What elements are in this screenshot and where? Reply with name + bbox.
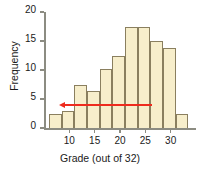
annotation-arrow-head [59, 102, 65, 108]
y-axis-tick-label: 0 [30, 120, 36, 131]
y-axis-label: Frequency [8, 21, 20, 111]
x-axis-tick-label: 30 [165, 135, 176, 146]
histogram-bar [112, 56, 125, 129]
x-axis-tick-label: 15 [89, 135, 100, 146]
histogram-bar [163, 48, 176, 128]
annotation-arrow-line [64, 104, 152, 106]
y-axis-tick-label: 15 [25, 33, 36, 44]
x-axis-tick [145, 129, 147, 133]
histogram-bar [100, 69, 113, 128]
y-axis-tick: 10 [40, 69, 44, 71]
x-axis-tick [119, 129, 121, 133]
y-axis-tick: 20 [40, 11, 44, 13]
y-axis-tick-label: 10 [25, 62, 36, 73]
histogram-bar [49, 114, 62, 129]
x-axis-tick [94, 129, 96, 133]
y-axis-tick: 0 [40, 127, 44, 129]
histogram-bar [125, 27, 138, 129]
histogram-bar [62, 111, 75, 128]
x-axis-tick-label: 25 [140, 135, 151, 146]
x-axis-tick-label: 20 [114, 135, 125, 146]
histogram-bar [150, 41, 163, 128]
plot-area: 051015201015202530 [44, 12, 196, 128]
histogram-chart: Frequency 051015201015202530 Grade (out … [0, 0, 200, 172]
y-axis-tick: 5 [40, 98, 44, 100]
x-axis-label: Grade (out of 32) [0, 152, 200, 164]
x-axis-tick [170, 129, 172, 133]
histogram-bar [87, 91, 100, 128]
histogram-bar [176, 114, 189, 129]
y-axis-tick-label: 5 [30, 91, 36, 102]
y-axis-line [44, 12, 46, 128]
x-axis-tick [69, 129, 71, 133]
y-axis-tick-label: 20 [25, 4, 36, 15]
x-axis-tick-label: 10 [64, 135, 75, 146]
histogram-bar [138, 27, 151, 129]
y-axis-tick: 15 [40, 40, 44, 42]
